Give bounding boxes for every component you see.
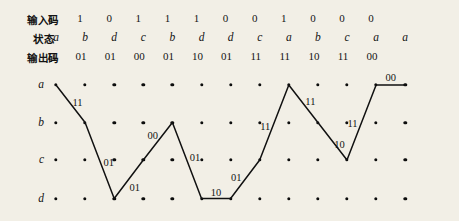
edge-label: 11 — [347, 117, 357, 128]
edge-label: 01 — [130, 182, 141, 193]
edge-label: 11 — [260, 120, 270, 131]
edge-label: 10 — [334, 139, 345, 150]
survivor-path — [0, 0, 459, 221]
edge-label: 00 — [148, 130, 159, 141]
edge-label: 00 — [385, 72, 396, 83]
trellis-diagram: 输入码 状态 输出码 110111001000 abdcbddcabcaa 11… — [0, 0, 459, 221]
edge-label: 01 — [103, 156, 114, 167]
edge-label: 11 — [72, 96, 82, 107]
edge-label: 01 — [231, 172, 242, 183]
edge-label: 01 — [190, 151, 201, 162]
edge-label: 11 — [305, 95, 315, 106]
edge-label: 10 — [211, 186, 222, 197]
